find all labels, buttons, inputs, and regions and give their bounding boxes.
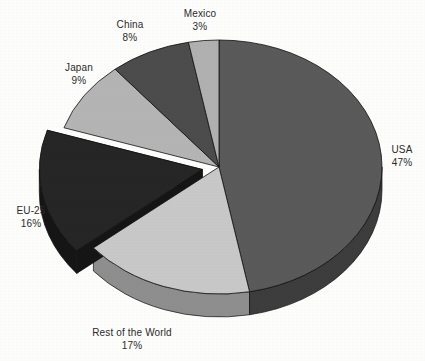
slice-label-eu25: EU-25 16% [0, 205, 64, 230]
slice-label-usa-name: USA [391, 144, 412, 155]
slice-label-rest-of-the-world: Rest of the World 17% [68, 327, 196, 352]
pie-chart-figure: Mexico 3% China 8% Japan 9% EU-25 16% Re… [0, 0, 425, 361]
slice-label-eu25-name: EU-25 [16, 205, 45, 216]
slice-label-china-name: China [117, 19, 144, 30]
slice-label-japan: Japan 9% [39, 62, 119, 87]
pie-chart-canvas [0, 0, 425, 361]
slice-label-mexico-name: Mexico [184, 8, 217, 19]
slice-label-rest-of-the-world-name: Rest of the World [92, 327, 172, 338]
slice-label-china: China 8% [90, 19, 170, 44]
slice-label-japan-name: Japan [65, 62, 93, 73]
slice-label-usa-value: 47% [380, 157, 424, 170]
slice-label-japan-value: 9% [39, 75, 119, 88]
slice-label-rest-of-the-world-value: 17% [68, 340, 196, 353]
slice-label-eu25-value: 16% [0, 218, 64, 231]
slice-label-usa: USA 47% [380, 144, 424, 169]
slice-label-mexico: Mexico 3% [160, 8, 240, 33]
slice-label-mexico-value: 3% [160, 21, 240, 34]
slice-label-china-value: 8% [90, 32, 170, 45]
